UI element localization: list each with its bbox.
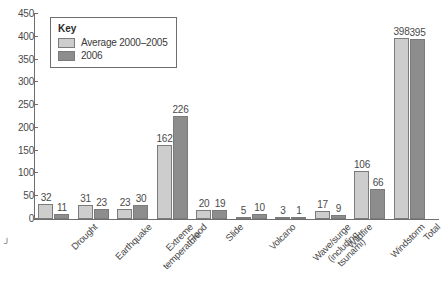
bar-average[interactable] — [315, 211, 330, 219]
bar-value-label: 19 — [212, 199, 228, 209]
bar-2006[interactable] — [410, 39, 425, 219]
y-tick-300: 300 — [0, 77, 34, 87]
category-label: Slide — [224, 222, 246, 244]
category-label: Earthquake — [113, 222, 153, 262]
bar-2006[interactable] — [212, 210, 227, 219]
y-tick-350: 350 — [0, 55, 34, 65]
bar-value-label: 106 — [354, 160, 370, 170]
bar-2006[interactable] — [291, 217, 306, 219]
bar-average[interactable] — [394, 38, 409, 219]
bar-average[interactable] — [196, 210, 211, 219]
legend: Key Average 2000–2005 2006 — [50, 17, 177, 68]
y-tick-450: 450 — [0, 9, 34, 19]
bar-value-label: 5 — [236, 206, 252, 216]
bar-group: 398395 — [394, 14, 426, 219]
category-label: Drought — [69, 222, 99, 252]
y-tick-400: 400 — [0, 32, 34, 42]
bar-2006[interactable] — [94, 209, 109, 219]
bar-value-label: 17 — [315, 200, 331, 210]
bar-value-label: 66 — [370, 178, 386, 188]
bar-average[interactable] — [275, 217, 290, 219]
bar-average[interactable] — [117, 209, 132, 219]
legend-label-average: Average 2000–2005 — [81, 37, 168, 48]
bar-average[interactable] — [157, 145, 172, 219]
bar-2006[interactable] — [331, 215, 346, 219]
bar-2006[interactable] — [133, 205, 148, 219]
legend-label-2006: 2006 — [81, 50, 102, 61]
y-tick-50: 50 — [0, 191, 34, 201]
bar-group: 31 — [275, 14, 307, 219]
bar-value-label: 3 — [275, 206, 291, 216]
bar-group: 10666 — [354, 14, 386, 219]
bar-value-label: 10 — [252, 203, 268, 213]
bar-value-label: 162 — [157, 134, 173, 144]
bar-value-label: 30 — [133, 194, 149, 204]
x-axis-line — [34, 219, 439, 220]
bar-value-label: 31 — [78, 194, 94, 204]
y-tick-0: 0 — [0, 214, 34, 224]
bar-value-label: 20 — [196, 199, 212, 209]
bar-2006[interactable] — [370, 189, 385, 219]
bar-group: 179 — [315, 14, 347, 219]
bar-group: 2019 — [196, 14, 228, 219]
category-label: Windstorm — [389, 222, 427, 260]
legend-swatch-2006-icon — [58, 51, 75, 61]
bar-value-label: 9 — [331, 204, 347, 214]
bar-group: 510 — [236, 14, 268, 219]
bar-value-label: 23 — [117, 198, 133, 208]
bar-value-label: 11 — [54, 203, 70, 213]
bar-2006[interactable] — [173, 116, 188, 219]
legend-title: Key — [58, 23, 169, 34]
bar-average[interactable] — [78, 205, 93, 219]
y-tick-150: 150 — [0, 146, 34, 156]
bar-value-label: 23 — [94, 198, 110, 208]
category-label: Volcano — [267, 222, 297, 252]
legend-swatch-average-icon — [58, 38, 75, 48]
bar-value-label: 1 — [291, 206, 307, 216]
y-tick-100: 100 — [0, 168, 34, 178]
bar-average[interactable] — [38, 204, 53, 219]
bar-2006[interactable] — [252, 214, 267, 219]
bar-value-label: 395 — [410, 28, 426, 38]
y-tick-200: 200 — [0, 123, 34, 133]
bar-average[interactable] — [354, 171, 369, 219]
bar-value-label: 226 — [173, 105, 189, 115]
bar-value-label: 398 — [394, 27, 410, 37]
bar-value-label: 32 — [38, 193, 54, 203]
legend-item-2006: 2006 — [58, 50, 169, 61]
y-tick-250: 250 — [0, 100, 34, 110]
page-corner-mark: ╯ — [4, 238, 10, 249]
bar-2006[interactable] — [54, 214, 69, 219]
legend-item-average: Average 2000–2005 — [58, 37, 169, 48]
bar-average[interactable] — [236, 217, 251, 219]
